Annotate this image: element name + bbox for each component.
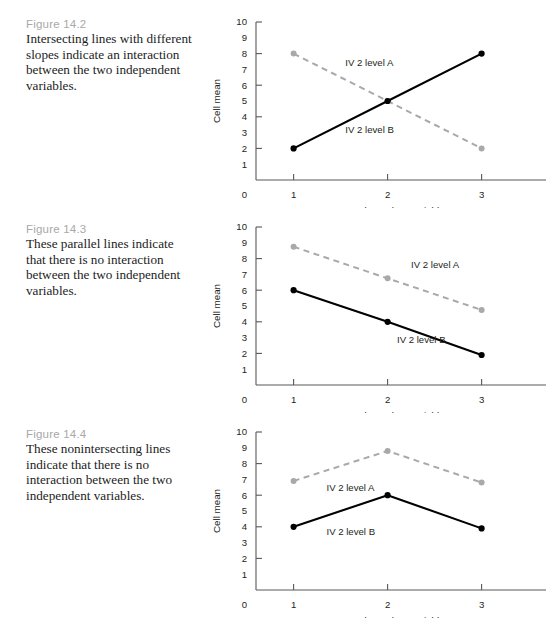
x-tick-label: 3 [479,599,484,610]
y-tick-label: 2 [242,553,247,564]
line-chart-14-2: 109876543210123Independent variable 1Cel… [208,8,548,208]
origin-label: 0 [242,189,247,200]
x-tick-label: 1 [291,394,296,405]
x-tick-label: 1 [291,189,296,200]
y-tick-label: 1 [242,159,247,170]
data-point [291,478,297,484]
origin-label: 0 [242,394,247,405]
figure-block-14-4: Figure 14.4 These nonintersecting lines … [0,410,558,624]
plot-area: 109876543210123Independent variable 1Cel… [211,426,546,618]
y-tick-label: 7 [242,474,247,485]
y-tick-label: 2 [242,143,247,154]
y-tick-label: 6 [242,285,247,296]
y-tick-label: 7 [242,269,247,280]
data-point [385,98,391,104]
data-point [385,492,391,498]
line-chart-14-3: 109876543210123Independent variable 1Cel… [208,213,548,413]
data-point [479,480,485,486]
figure-number-label: Figure 14.4 [26,428,196,440]
figure-block-14-3: Figure 14.3 These parallel lines indicat… [0,205,558,410]
line-chart-14-4: 109876543210123Independent variable 1Cel… [208,418,548,618]
x-tick-label: 1 [291,599,296,610]
plot-area: 109876543210123Independent variable 1Cel… [211,16,546,208]
x-tick-label: 2 [385,599,390,610]
series-annotation: IV 2 level A [345,57,394,68]
series-annotation: IV 2 level A [411,259,460,270]
y-tick-label: 4 [242,521,248,532]
x-tick-label: 3 [479,394,484,405]
figure-caption-14-3: Figure 14.3 These parallel lines indicat… [26,223,196,298]
data-point [479,51,485,57]
data-point [385,319,391,325]
y-tick-label: 2 [242,348,247,359]
data-point [479,307,485,313]
y-tick-label: 8 [242,253,247,264]
data-point [291,287,297,293]
y-tick-label: 1 [242,364,247,375]
y-axis-title: Cell mean [211,284,222,328]
data-point [291,51,297,57]
figure-caption-text: Intersecting lines with different slopes… [26,31,196,93]
data-point [291,145,297,151]
y-tick-label: 3 [242,537,247,548]
chart-container-14-4: 109876543210123Independent variable 1Cel… [208,418,548,618]
series-annotation: IV 2 level B [327,526,376,537]
y-tick-label: 8 [242,458,247,469]
data-point [291,524,297,530]
y-tick-label: 5 [242,95,247,106]
y-tick-label: 5 [242,505,247,516]
origin-label: 0 [242,599,247,610]
y-tick-label: 6 [242,490,247,501]
chart-container-14-3: 109876543210123Independent variable 1Cel… [208,213,548,413]
y-tick-label: 10 [236,426,247,437]
figure-caption-14-2: Figure 14.2 Intersecting lines with diff… [26,18,196,93]
y-tick-label: 4 [242,111,248,122]
figure-caption-14-4: Figure 14.4 These nonintersecting lines … [26,428,196,503]
y-tick-label: 3 [242,332,247,343]
y-tick-label: 9 [242,237,247,248]
x-tick-label: 3 [479,189,484,200]
plot-area: 109876543210123Independent variable 1Cel… [211,221,546,413]
data-point [385,275,391,281]
y-tick-label: 3 [242,127,247,138]
y-axis-title: Cell mean [211,79,222,123]
y-tick-label: 9 [242,32,247,43]
chart-container-14-2: 109876543210123Independent variable 1Cel… [208,8,548,208]
y-tick-label: 7 [242,64,247,75]
figure-caption-text: These nonintersecting lines indicate tha… [26,441,196,503]
series-line-iv-2-level-b [294,495,482,528]
data-point [385,448,391,454]
y-tick-label: 1 [242,569,247,580]
figure-block-14-2: Figure 14.2 Intersecting lines with diff… [0,0,558,205]
series-annotation: IV 2 level A [327,482,376,493]
data-point [479,145,485,151]
x-tick-label: 2 [385,394,390,405]
x-tick-label: 2 [385,189,390,200]
series-annotation: IV 2 level B [345,124,394,135]
y-tick-label: 9 [242,442,247,453]
y-tick-label: 4 [242,316,248,327]
x-axis-title: Independent variable 1 [353,615,453,618]
series-line-iv-2-level-a [294,451,482,483]
series-annotation: IV 2 level B [397,334,446,345]
y-tick-label: 8 [242,48,247,59]
y-tick-label: 5 [242,300,247,311]
y-axis-title: Cell mean [211,489,222,533]
y-tick-label: 6 [242,80,247,91]
figure-caption-text: These parallel lines indicate that there… [26,236,196,298]
figure-number-label: Figure 14.3 [26,223,196,235]
figure-page: Figure 14.2 Intersecting lines with diff… [0,0,558,634]
data-point [291,244,297,250]
figure-number-label: Figure 14.2 [26,18,196,30]
data-point [479,525,485,531]
y-tick-label: 10 [236,16,247,27]
y-tick-label: 10 [236,221,247,232]
data-point [479,352,485,358]
